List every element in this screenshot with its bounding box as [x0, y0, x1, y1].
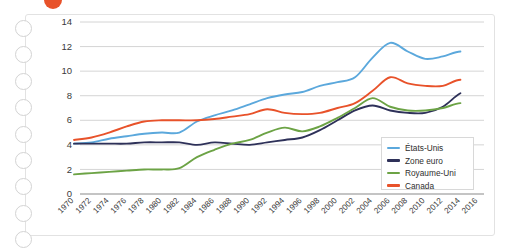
series-line: [74, 43, 460, 144]
x-axis-tick-label: 1976: [109, 196, 129, 216]
spiral-binding-hole: [15, 73, 32, 90]
x-axis-tick-label: 2010: [407, 196, 427, 216]
series-line: [74, 77, 460, 140]
y-axis-tick-labels: 02468101214: [61, 16, 72, 199]
x-axis-tick-label: 1998: [302, 196, 322, 216]
x-axis-tick-label: 1984: [179, 196, 199, 216]
y-axis-tick-label: 6: [67, 114, 72, 125]
spiral-binding-hole: [15, 231, 32, 248]
x-axis-tick-label: 1978: [126, 196, 146, 216]
line-chart: 02468101214 1970197219741976197819801982…: [48, 14, 494, 252]
x-axis-tick-label: 1996: [285, 196, 305, 216]
legend-item[interactable]: Canada: [387, 180, 473, 192]
chart-svg: 02468101214 1970197219741976197819801982…: [48, 14, 494, 252]
legend-swatch-icon: [387, 184, 400, 187]
legend-swatch-icon: [387, 159, 400, 162]
spiral-binding-hole: [15, 152, 32, 169]
spiral-binding-hole: [15, 126, 32, 143]
x-axis-tick-label: 2012: [425, 196, 445, 216]
x-axis-tick-label: 1970: [56, 196, 76, 216]
legend-item[interactable]: Zone euro: [387, 155, 473, 167]
x-axis-tick-label: 1986: [197, 196, 217, 216]
x-axis-tick-label: 2004: [355, 196, 375, 216]
y-axis-tick-label: 14: [61, 16, 72, 27]
spiral-binding-holes: [9, 20, 41, 244]
x-axis-tick-label: 2006: [372, 196, 392, 216]
spiral-binding-hole: [15, 99, 32, 116]
x-axis-tick-label: 1992: [249, 196, 269, 216]
x-axis-tick-label: 2000: [320, 196, 340, 216]
x-axis-tick-label: 1980: [144, 196, 164, 216]
legend-swatch-icon: [387, 172, 400, 175]
y-axis-tick-label: 8: [67, 90, 72, 101]
x-axis-tick-labels: 1970197219741976197819801982198419861988…: [56, 196, 480, 216]
legend-item[interactable]: Royaume-Uni: [387, 167, 473, 179]
spiral-binding-hole: [15, 178, 32, 195]
x-axis-tick-label: 1990: [232, 196, 252, 216]
y-axis-tick-label: 4: [67, 139, 72, 150]
y-axis-tick-label: 10: [61, 65, 72, 76]
legend-item[interactable]: États-Unis: [387, 142, 473, 154]
chart-page: 02468101214 1970197219741976197819801982…: [0, 0, 512, 252]
legend-item-label: Zone euro: [405, 155, 443, 167]
x-axis-tick-label: 1988: [214, 196, 234, 216]
x-axis-tick-label: 2008: [390, 196, 410, 216]
y-axis-tick-label: 12: [61, 41, 72, 52]
legend-item-label: Canada: [405, 180, 434, 192]
x-axis-tick-label: 1982: [162, 196, 182, 216]
legend-item-label: Royaume-Uni: [405, 167, 456, 179]
x-axis-tick-label: 2016: [460, 196, 480, 216]
spiral-binding-hole: [15, 205, 32, 222]
x-axis-tick-label: 1994: [267, 196, 287, 216]
x-axis-tick-label: 1972: [74, 196, 94, 216]
spiral-binding-hole: [15, 20, 32, 37]
x-axis-tick-label: 2014: [443, 196, 463, 216]
y-axis-tick-label: 2: [67, 164, 72, 175]
x-axis-tick-label: 1974: [91, 196, 111, 216]
x-axis-tick-label: 2002: [337, 196, 357, 216]
legend-swatch-icon: [387, 147, 400, 150]
decorative-orange-dot: [44, 0, 62, 9]
legend-item-label: États-Unis: [405, 142, 443, 154]
spiral-binding-hole: [15, 46, 32, 63]
chart-legend: États-UnisZone euroRoyaume-UniCanada: [381, 137, 474, 190]
